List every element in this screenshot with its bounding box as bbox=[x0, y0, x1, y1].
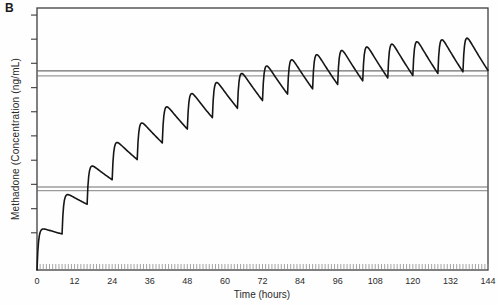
x-tick-label: 120 bbox=[405, 276, 420, 286]
axes-layer bbox=[31, 8, 488, 270]
x-tick-labels-layer: 01224364860728496108120132144 bbox=[34, 276, 495, 286]
x-tick-label: 84 bbox=[295, 276, 305, 286]
x-tick-label: 12 bbox=[70, 276, 80, 286]
pk-accumulation-figure: B Methadone (Concentration (ng/mL) 01224… bbox=[0, 0, 498, 306]
x-tick-label: 36 bbox=[145, 276, 155, 286]
x-tick-label: 24 bbox=[107, 276, 117, 286]
concentration-curve-layer bbox=[37, 38, 488, 270]
x-tick-label: 144 bbox=[480, 276, 495, 286]
x-tick-label: 48 bbox=[182, 276, 192, 286]
methadone-concentration-curve bbox=[37, 38, 488, 270]
x-tick-label: 60 bbox=[220, 276, 230, 286]
x-tick-label: 96 bbox=[333, 276, 343, 286]
x-tick-label: 0 bbox=[34, 276, 39, 286]
chart-canvas: 01224364860728496108120132144 bbox=[0, 0, 498, 306]
x-tick-label: 108 bbox=[368, 276, 383, 286]
x-tick-label: 72 bbox=[257, 276, 267, 286]
x-axis-title: Time (hours) bbox=[234, 289, 290, 300]
x-tick-label: 132 bbox=[443, 276, 458, 286]
plot-frame bbox=[37, 8, 488, 270]
